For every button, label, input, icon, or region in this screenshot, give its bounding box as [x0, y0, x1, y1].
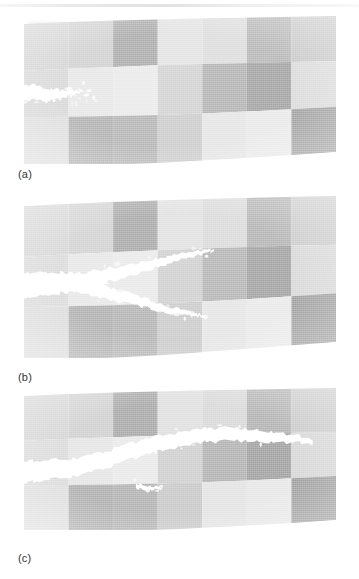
panel-b: [24, 196, 336, 358]
specimen-b-render: [24, 196, 336, 358]
panel-c: [24, 388, 336, 530]
panel-a: [24, 16, 336, 164]
specimen-a: [24, 16, 336, 164]
panel-label-b: (b): [18, 371, 32, 383]
figure-canvas: (a) (b) (c): [0, 0, 359, 579]
panel-label-a: (a): [18, 168, 32, 180]
panel-label-c: (c): [18, 552, 31, 564]
scan-artifact-line: [0, 4, 359, 7]
specimen-c-render: [24, 388, 336, 530]
specimen-b: [24, 196, 336, 358]
specimen-a-render: [24, 16, 336, 164]
specimen-c: [24, 388, 336, 530]
